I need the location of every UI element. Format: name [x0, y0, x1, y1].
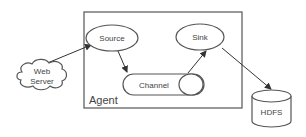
web-server-cloud: Web Server: [17, 59, 67, 89]
agent-label: Agent: [89, 94, 118, 106]
sink-node: Sink: [176, 24, 224, 50]
edge-source-to-channel: [118, 51, 127, 72]
hdfs-cylinder: HDFS: [252, 90, 291, 127]
channel-label: Channel: [139, 81, 169, 90]
channel-node: Channel: [123, 74, 204, 95]
sink-label: Sink: [192, 33, 209, 42]
web-server-label-line2: Server: [30, 77, 54, 86]
source-label: Source: [99, 34, 125, 43]
edge-channel-to-sink: [188, 51, 206, 73]
source-node: Source: [86, 25, 138, 51]
flume-agent-diagram: Agent Web Server Source Channel Sink HDF…: [0, 0, 306, 137]
edge-sink-to-hdfs: [222, 48, 271, 89]
hdfs-label: HDFS: [261, 108, 283, 117]
web-server-label-line1: Web: [34, 67, 51, 76]
